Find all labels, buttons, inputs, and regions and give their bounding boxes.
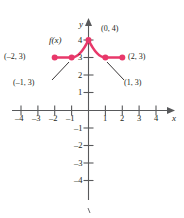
graph-figure: y x f(x) –4 –3 –2 –1 1 2 3 4 4 3 2 1 –1 … [0, 0, 184, 218]
coordinate-plane-svg [0, 0, 184, 218]
y-tick-label-2: 2 [78, 71, 82, 80]
point-2-3 [119, 55, 125, 61]
x-tick-label-1: 1 [103, 114, 107, 123]
x-axis-label: x [172, 114, 176, 123]
point-neg1-3 [69, 55, 75, 61]
y-tick-label-neg4: –4 [74, 176, 83, 185]
y-tick-label-1: 1 [78, 88, 82, 97]
x-tick-label-2: 2 [120, 114, 124, 123]
label-neg2-3: (–2, 3) [4, 53, 25, 61]
plate-bottom-mark [88, 208, 90, 213]
x-tick-label-neg1: –1 [66, 114, 75, 123]
y-axis-arrow [85, 18, 92, 26]
x-tick-label-4: 4 [154, 114, 158, 123]
point-0-4 [86, 37, 92, 43]
y-tick-label-4: 4 [78, 36, 82, 45]
x-tick-label-neg4: –4 [15, 114, 24, 123]
y-axis-label: y [79, 20, 83, 29]
x-tick-label-3: 3 [137, 114, 141, 123]
label-neg1-3: (–1, 3) [13, 79, 34, 87]
label-0-4: (0, 4) [101, 25, 118, 33]
x-tick-label-neg2: –2 [49, 114, 58, 123]
label-2-3: (2, 3) [128, 53, 145, 61]
y-tick-label-neg2: –2 [74, 141, 83, 150]
x-tick-label-neg3: –3 [32, 114, 41, 123]
point-1-3 [102, 55, 108, 61]
point-neg2-3 [52, 55, 58, 61]
y-tick-label-3: 3 [78, 53, 82, 62]
y-tick-label-neg3: –3 [74, 159, 83, 168]
label-1-3: (1, 3) [124, 79, 141, 87]
leader-line-pos1 [107, 62, 124, 80]
y-tick-label-neg1: –1 [74, 124, 83, 133]
function-label: f(x) [49, 36, 62, 45]
leader-line-neg1 [52, 62, 69, 80]
